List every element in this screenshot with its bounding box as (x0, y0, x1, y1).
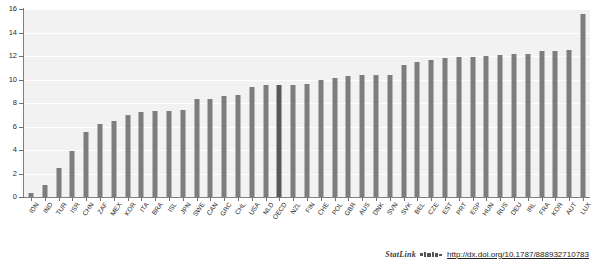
bar[interactable] (346, 76, 351, 197)
bar-slot (65, 9, 79, 197)
bar[interactable] (97, 124, 102, 197)
bar[interactable] (42, 185, 47, 197)
x-axis-label-deu: DEU (509, 201, 523, 216)
bar-slot (286, 9, 300, 197)
bar[interactable] (56, 168, 61, 197)
x-axis-label-chl: CHL (233, 201, 246, 216)
x-axis-label-lux: LUX (579, 201, 592, 216)
x-axis-label-fra: FRA (537, 201, 550, 216)
x-axis-label-ita: ITA (139, 201, 150, 213)
bar[interactable] (111, 121, 116, 197)
bar[interactable] (291, 85, 296, 197)
x-axis-label-cze: CZE (427, 201, 440, 216)
bar[interactable] (263, 85, 268, 197)
bar-slot (52, 9, 66, 197)
y-axis-tick-label: 8 (0, 99, 17, 107)
bar-slot (148, 9, 162, 197)
x-axis-label-esp: ESP (468, 201, 481, 216)
bar[interactable] (374, 75, 379, 197)
bar[interactable] (84, 132, 89, 197)
bar[interactable] (139, 112, 144, 197)
bar[interactable] (360, 75, 365, 197)
bar[interactable] (401, 65, 406, 197)
bar[interactable] (318, 80, 323, 198)
x-axis-label-gbr: GBR (343, 201, 357, 217)
bar[interactable] (222, 96, 227, 197)
bar[interactable] (166, 111, 171, 197)
bar[interactable] (429, 60, 434, 197)
x-axis-label-dnk: DNK (371, 201, 385, 216)
x-axis-label-usa: USA (247, 201, 261, 216)
bar-slot (397, 9, 411, 197)
bar-slot (121, 9, 135, 197)
x-axis-label-kor: KOR (122, 201, 136, 217)
bar-slot (493, 9, 507, 197)
bar-slot (355, 9, 369, 197)
x-axis-label-ind: IND (41, 201, 53, 214)
bar-slot (314, 9, 328, 197)
x-axis-label-kor: KOR (550, 201, 564, 217)
x-axis-label-isr: ISR (69, 201, 81, 214)
bar[interactable] (235, 95, 240, 197)
bar[interactable] (525, 54, 530, 197)
x-axis-label-chn: CHN (81, 201, 95, 217)
bar[interactable] (415, 62, 420, 197)
bar-slot (259, 9, 273, 197)
bar[interactable] (70, 151, 75, 197)
bar[interactable] (539, 51, 544, 197)
bar[interactable] (249, 87, 254, 197)
bar-slot (562, 9, 576, 197)
bar-slot (549, 9, 563, 197)
x-axis-label-che: CHE (316, 201, 330, 216)
x-axis-label-grc: GRC (219, 201, 233, 217)
bar[interactable] (553, 51, 558, 197)
bar[interactable] (28, 193, 33, 197)
x-axis-label-bra: BRA (150, 201, 164, 216)
bar-slot (272, 9, 286, 197)
bar[interactable] (443, 58, 448, 197)
bar[interactable] (180, 110, 185, 197)
y-axis-tick-label: 0 (0, 193, 17, 201)
bar[interactable] (125, 115, 130, 197)
x-axis-label-est: EST (441, 201, 454, 216)
bar-slot (342, 9, 356, 197)
bar-slot (162, 9, 176, 197)
x-axis-label-swe: SWE (191, 201, 205, 217)
bar[interactable] (208, 99, 213, 197)
bar-slot (438, 9, 452, 197)
x-axis-label-svk: SVK (399, 201, 412, 216)
x-axis-label-nzl: NZL (289, 201, 302, 215)
bar[interactable] (567, 50, 572, 197)
bar-slot (38, 9, 52, 197)
y-axis-tick-label: 6 (0, 123, 17, 131)
bar-slot (328, 9, 342, 197)
bar[interactable] (498, 55, 503, 197)
y-axis-tick-label: 10 (0, 76, 17, 84)
bar-slot (190, 9, 204, 197)
statlink-footer: StatLink http://dx.doi.org/10.1787/88893… (0, 247, 595, 261)
x-axis-label-hun: HUN (481, 201, 495, 217)
bar-slot (176, 9, 190, 197)
x-axis-label-mex: MEX (109, 201, 123, 217)
bar[interactable] (304, 84, 309, 197)
bar-slot (383, 9, 397, 197)
bar[interactable] (332, 78, 337, 197)
bar[interactable] (484, 56, 489, 197)
bar-slot (93, 9, 107, 197)
y-axis-tick-label: 4 (0, 146, 17, 154)
bar-slot (424, 9, 438, 197)
bar[interactable] (387, 75, 392, 197)
x-axis-label-prt: PRT (454, 201, 467, 216)
bar-slot (535, 9, 549, 197)
statlink-doi-link[interactable]: http://dx.doi.org/10.1787/888932710783 (447, 250, 589, 259)
x-axis-label-zaf: ZAF (96, 201, 109, 215)
bar[interactable] (512, 54, 517, 197)
bar[interactable] (194, 99, 199, 197)
bar-slot (79, 9, 93, 197)
bar[interactable] (581, 14, 586, 197)
bar-highlight-oecd[interactable] (277, 85, 282, 197)
bar[interactable] (456, 57, 461, 197)
bar[interactable] (470, 57, 475, 197)
bar-slot (217, 9, 231, 197)
bar[interactable] (153, 111, 158, 197)
